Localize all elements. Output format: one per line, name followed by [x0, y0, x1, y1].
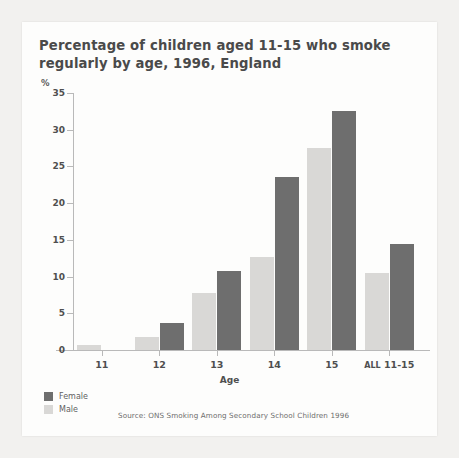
bar-group	[365, 93, 414, 350]
bar-group	[250, 93, 299, 350]
legend-swatch-female-icon	[44, 392, 53, 401]
x-axis-tick-label: ALL 11-15	[364, 359, 414, 370]
chart-source-note: Source: ONS Smoking Among Secondary Scho…	[118, 411, 349, 420]
x-axis-tick-label: 13	[210, 359, 223, 370]
bar-male-11	[77, 345, 101, 350]
bar-group	[135, 93, 184, 350]
y-axis-tick-label: 0	[59, 345, 65, 355]
bar-male-14	[250, 257, 274, 350]
legend-label-male: Male	[59, 405, 78, 414]
y-axis-tick-label: 35	[52, 88, 65, 98]
chart-legend: Female Male	[44, 390, 88, 416]
x-axis-tick-mark	[217, 350, 218, 356]
legend-item-female: Female	[44, 390, 88, 403]
bar-female-13	[217, 271, 241, 350]
x-axis-tick-label: 11	[95, 359, 108, 370]
x-axis-line	[56, 350, 430, 351]
y-axis-tick-mark	[67, 350, 73, 351]
bar-female-15	[332, 111, 356, 350]
bar-group	[307, 93, 356, 350]
chart-card: Percentage of children aged 11-15 who sm…	[22, 22, 437, 436]
x-axis-tick-mark	[102, 350, 103, 356]
bar-female-14	[275, 177, 299, 350]
y-axis-tick-label: 20	[52, 198, 65, 208]
legend-item-male: Male	[44, 403, 88, 416]
y-axis-unit-label: %	[41, 78, 50, 88]
x-axis-tick-mark	[274, 350, 275, 356]
x-axis-tick-mark	[159, 350, 160, 356]
x-axis-title: Age	[22, 375, 437, 385]
bar-female-all-11-15	[390, 244, 414, 350]
bar-male-15	[307, 148, 331, 350]
y-axis-tick-label: 15	[52, 235, 65, 245]
bar-male-13	[192, 293, 216, 350]
chart-page: Percentage of children aged 11-15 who sm…	[0, 0, 459, 458]
y-axis-tick-label: 10	[52, 272, 65, 282]
y-axis-tick-label: 5	[59, 308, 65, 318]
x-axis-tick-label: 15	[325, 359, 338, 370]
bar-group	[192, 93, 241, 350]
x-axis-tick-label: 12	[153, 359, 166, 370]
x-axis-tick-mark	[389, 350, 390, 356]
bar-male-all-11-15	[365, 273, 389, 350]
legend-swatch-male-icon	[44, 405, 53, 414]
chart-title: Percentage of children aged 11-15 who sm…	[39, 37, 421, 73]
bar-female-12	[160, 323, 184, 350]
x-axis-tick-mark	[332, 350, 333, 356]
plot-area	[73, 93, 418, 350]
legend-label-female: Female	[59, 392, 88, 401]
bar-group	[77, 93, 126, 350]
y-axis-tick-label: 30	[52, 125, 65, 135]
y-axis-tick-label: 25	[52, 161, 65, 171]
bar-male-12	[135, 337, 159, 350]
x-axis-tick-label: 14	[268, 359, 281, 370]
